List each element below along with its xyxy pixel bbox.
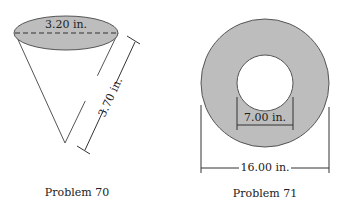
caption-problem-70: Problem 70: [45, 186, 109, 199]
inner-label: 7.00 in.: [244, 111, 286, 124]
problem-70-cone: 3.20 in. 3.70 in. Problem 70: [14, 16, 140, 199]
outer-label: 16.00 in.: [240, 161, 289, 174]
inner-circle: [237, 55, 293, 111]
problem-71-washer: 7.00 in. 16.00 in. Problem 71: [201, 19, 329, 200]
diagram-canvas: 3.20 in. 3.70 in. Problem 70 7.00 in. 16…: [0, 0, 343, 210]
diameter-label: 3.20 in.: [45, 18, 87, 31]
caption-problem-71: Problem 71: [233, 187, 297, 200]
